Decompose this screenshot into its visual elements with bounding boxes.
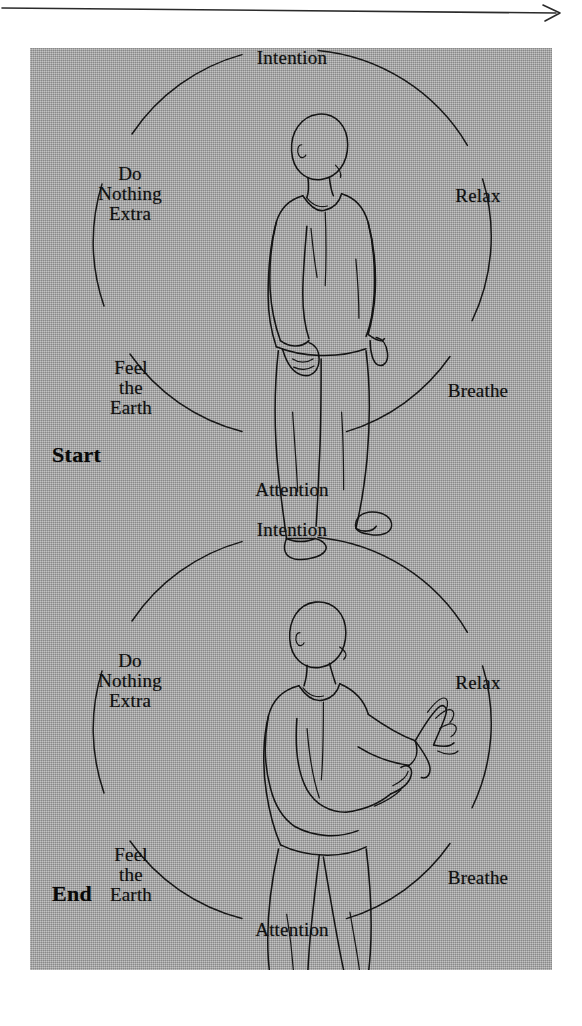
illustration-panel: .ink { fill:none; stroke:#141414; stroke… [30,48,552,970]
ring-label-relax-start: Relax [455,186,500,206]
ring-label-attention-end: Attention [255,920,329,940]
ring-label-feel-the-earth-start: Feel the Earth [110,358,152,418]
ring-label-relax-end: Relax [455,673,500,693]
ring-label-intention-end: Intention [257,520,327,540]
time-direction-arrow [0,0,582,26]
ring-label-breathe-end: Breathe [448,868,508,888]
ring-start-cycle [93,51,491,432]
ring-label-breathe-start: Breathe [448,381,508,401]
ring-label-do-nothing-extra-end: Do Nothing Extra [98,651,162,711]
figure-taichi-end [264,602,458,970]
corner-label-end: End [52,881,92,907]
ring-label-attention-start: Attention [255,480,329,500]
ring-label-intention-start: Intention [257,48,327,68]
corner-label-start: Start [52,442,101,468]
ring-end-cycle [93,538,491,919]
ring-label-do-nothing-extra-start: Do Nothing Extra [98,164,162,224]
ring-label-feel-the-earth-end: Feel the Earth [110,845,152,905]
